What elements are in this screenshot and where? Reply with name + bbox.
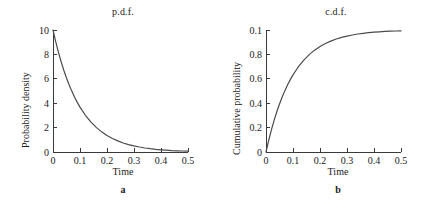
panel-a-caption: a: [0, 184, 228, 195]
panel-b-ytick-2: 0.4: [250, 98, 263, 109]
panel-b-ytick-4: 0.8: [250, 49, 263, 60]
panel-b-cdf: c.d.f. Cumulative probability: [211, 0, 421, 204]
panel-a-xtick-5: 0.5: [182, 155, 195, 166]
panel-b-xtick-1: 0.1: [287, 155, 300, 166]
figure-container: p.d.f. Probability density: [0, 0, 421, 204]
panel-b-xtick-5: 0.5: [395, 155, 408, 166]
panel-a-ytick-3: 6: [44, 73, 49, 84]
panel-a-xtick-0: 0: [51, 155, 56, 166]
panel-b-ytick-5: 0.1: [250, 25, 263, 36]
panel-a-xtick-4: 0.4: [155, 155, 168, 166]
panel-a-x-axis-label: Time: [0, 166, 228, 177]
panel-b-xtick-2: 0.2: [314, 155, 327, 166]
panel-b-y-tick-labels: 0 0.2 0.4 0.6 0.8 0.1: [250, 25, 263, 158]
panel-b-ytick-1: 0.2: [250, 122, 263, 133]
panel-b-xtick-3: 0.3: [341, 155, 354, 166]
panel-a-xtick-3: 0.3: [128, 155, 141, 166]
panel-a-axis-lines: [53, 30, 188, 152]
panel-b-caption: b: [211, 184, 421, 195]
panel-b-x-axis-label: Time: [211, 166, 421, 177]
panel-a-y-tick-labels: 0 2 4 6 8 10: [39, 25, 49, 158]
panel-b-data-curve: [266, 31, 401, 152]
panel-a-xtick-1: 0.1: [74, 155, 87, 166]
panel-a-x-tick-labels: 0 0.1 0.2 0.3 0.4 0.5: [51, 155, 195, 166]
panel-b-y-ticks: [266, 30, 270, 152]
panel-a-ytick-1: 2: [44, 122, 49, 133]
panel-a-ytick-5: 10: [39, 25, 49, 36]
panel-b-x-tick-labels: 0 0.1 0.2 0.3 0.4 0.5: [264, 155, 408, 166]
panel-a-data-curve: [53, 30, 188, 151]
panel-b-xtick-4: 0.4: [368, 155, 381, 166]
panel-b-xtick-0: 0: [264, 155, 269, 166]
panel-b-ytick-3: 0.6: [250, 73, 263, 84]
panel-a-xtick-2: 0.2: [101, 155, 114, 166]
panel-b-ytick-0: 0: [257, 147, 262, 158]
panel-a-ytick-0: 0: [44, 147, 49, 158]
panel-a-pdf: p.d.f. Probability density: [0, 0, 210, 204]
panel-a-y-ticks: [53, 30, 57, 152]
panel-a-ytick-4: 8: [44, 49, 49, 60]
panel-b-axis-lines: [266, 30, 401, 152]
panel-b-x-ticks: [266, 148, 401, 152]
panel-a-ytick-2: 4: [44, 98, 49, 109]
